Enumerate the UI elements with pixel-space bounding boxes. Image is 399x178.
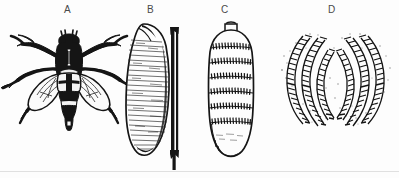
larva-ventral-illustration [192, 18, 274, 173]
left-spiracular-plate [287, 35, 335, 126]
panel-a: A [0, 0, 135, 178]
plate-baseline [0, 171, 399, 172]
panel-label-c: C [221, 4, 229, 15]
panel-d: D [272, 0, 399, 178]
adult-fly-dorsal-illustration [0, 18, 135, 143]
panel-label-a: A [64, 4, 71, 15]
panel-label-b: B [147, 4, 154, 15]
panel-c: C [192, 0, 274, 178]
larva-lateral-illustration [118, 18, 200, 173]
figure-plate: A [0, 0, 399, 178]
panel-label-d: D [328, 4, 336, 15]
spiracular-plates-illustration [272, 18, 399, 148]
panel-b: B [118, 0, 200, 178]
right-spiracular-plate [336, 35, 384, 126]
